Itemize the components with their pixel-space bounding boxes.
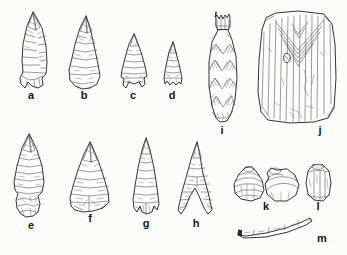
artifact-figure-j [254,8,342,126]
artifact-figure-c [117,32,151,94]
artifact-label-b: b [77,90,91,101]
artifact-figure-f [65,140,115,216]
artifact-label-e: e [24,220,38,231]
artifact-figure-b [64,14,108,96]
artifact-label-h: h [189,218,203,229]
artifact-label-j: j [313,125,327,136]
artifact-label-g: g [139,218,153,229]
artifact-figure-i [203,8,243,126]
artifact-figure-g [128,136,164,220]
artifact-figure-l [303,161,335,205]
artifact-label-f: f [83,213,97,224]
artifact-figure-h [175,140,219,220]
artifact-label-i: i [215,125,229,136]
artifact-plate: a b [0,0,347,255]
artifact-label-d: d [165,90,179,101]
artifact-label-c: c [126,90,140,101]
artifact-figure-d [160,40,186,94]
artifact-label-m: m [315,233,329,244]
artifact-figure-m [236,216,318,238]
artifact-label-a: a [24,90,38,101]
artifact-label-k: k [259,201,273,212]
artifact-label-l: l [311,201,325,212]
artifact-figure-e [8,132,54,222]
artifact-figure-a [16,10,58,94]
